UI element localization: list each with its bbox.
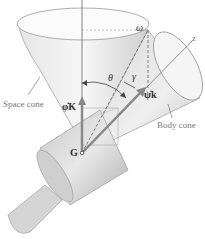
- z-axis-label: z: [192, 33, 196, 43]
- center-of-mass-point: [80, 151, 84, 155]
- precession-diagram: ω z θ γ ψ̇k φ̇K Space cone Body cone G: [0, 0, 205, 239]
- body-cone-label: Body cone: [157, 120, 196, 130]
- center-of-mass-label: G: [70, 147, 78, 158]
- omega-label: ω: [136, 22, 143, 33]
- space-cone-leader: [28, 77, 40, 95]
- phi-dot-K-label: φ̇K: [62, 101, 76, 112]
- space-cone-label: Space cone: [3, 99, 44, 109]
- theta-label: θ: [108, 72, 113, 83]
- psi-dot-k-label: ψ̇k: [144, 89, 157, 100]
